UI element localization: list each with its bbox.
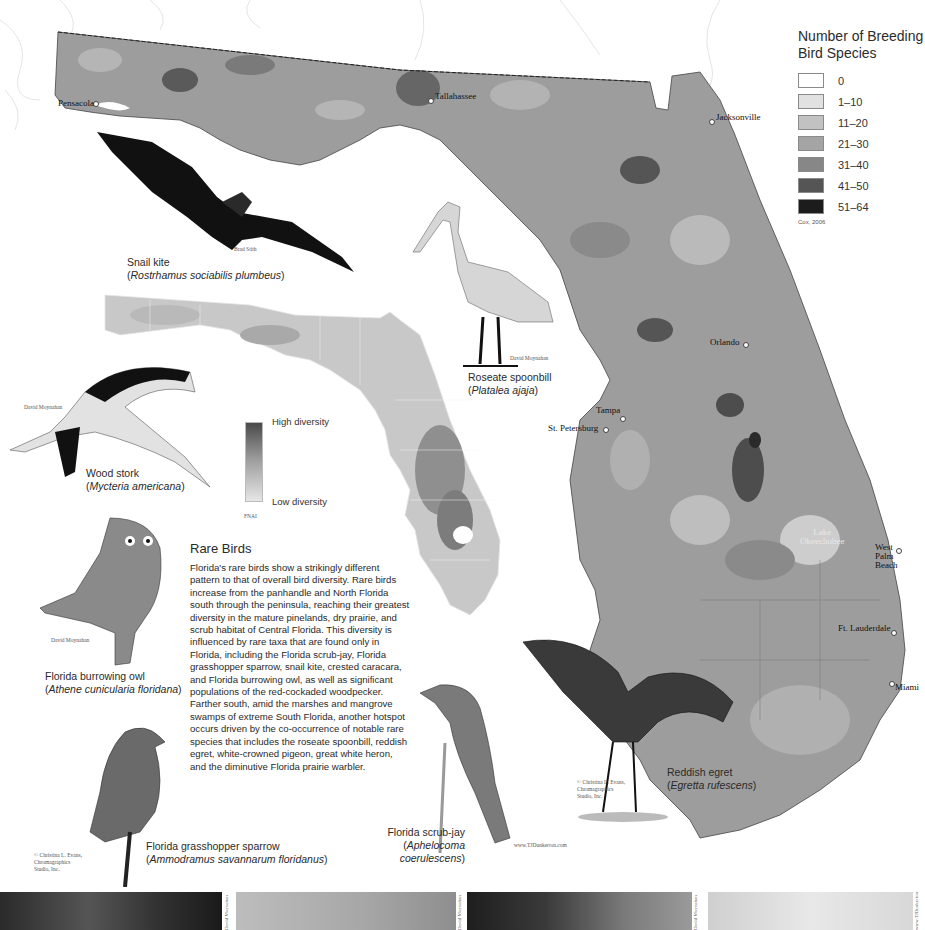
diversity-source: FNAI	[244, 513, 257, 519]
city-marker-jacksonville	[709, 119, 715, 125]
photo-2	[236, 892, 456, 930]
wood-stork-credit: David Moynahan	[24, 404, 62, 411]
legend-swatch	[798, 136, 824, 151]
city-label-ft-lauderdale: Ft. Lauderdale	[838, 623, 890, 633]
city-marker-tampa	[620, 416, 626, 422]
legend-item: 51–64	[798, 196, 925, 217]
city-label-tallahassee: Tallahassee	[435, 91, 476, 101]
diversity-gradient-bar	[245, 422, 263, 502]
rare-birds-heading: Rare Birds	[190, 541, 251, 556]
photo-1-credit: David Moynahan	[224, 892, 232, 930]
city-marker-st-petersburg	[603, 427, 609, 433]
photo-strip: David Moynahan David Moynahan David Moyn…	[0, 892, 925, 930]
species-count-legend: Number of BreedingBird Species 0 1–10 11…	[798, 28, 925, 225]
legend-swatch	[798, 199, 824, 214]
photo-3	[467, 892, 692, 930]
wood-stork-caption: Wood stork (Mycteria americana)	[86, 467, 185, 493]
city-marker-orlando	[743, 342, 749, 348]
high-diversity-label: High diversity	[272, 416, 329, 427]
snail-kite-caption: Snail kite (Rostrhamus sociabilis plumbe…	[127, 256, 285, 282]
legend-swatch	[798, 178, 824, 193]
scrub-jay-caption: Florida scrub-jay (Aphelocoma coerulesce…	[385, 826, 465, 865]
low-diversity-label: Low diversity	[272, 496, 327, 507]
city-marker-ft-lauderdale	[891, 630, 897, 636]
city-label-west-palm-beach: WestPalmBeach	[875, 543, 898, 570]
grasshopper-sparrow-credit: © Christina L. Evans, Chromagraphics Stu…	[34, 852, 82, 873]
roseate-spoonbill-illustration	[408, 192, 558, 372]
legend-item: 1–10	[798, 91, 925, 112]
scrub-jay-credit: www.TJDunkerton.com	[514, 842, 567, 849]
burrowing-owl-credit: David Moynahan	[51, 637, 89, 644]
photo-4	[708, 892, 913, 930]
lake-okeechobee-label: LakeOkeechobee	[800, 528, 844, 546]
snail-kite-credit: Brad Stith	[234, 246, 256, 253]
photo-3-credit: David Moynahan	[693, 892, 701, 930]
city-label-jacksonville: Jacksonville	[716, 112, 761, 122]
photo-4-credit: www.TJDunkerton.com	[914, 892, 922, 930]
legend-item: 31–40	[798, 154, 925, 175]
legend-swatch	[798, 73, 824, 88]
legend-source: Cox, 2006	[798, 219, 925, 225]
photo-1	[0, 892, 222, 930]
reddish-egret-credit: © Christina L. Evans, Chromagraphics Stu…	[577, 779, 625, 800]
legend-title: Number of BreedingBird Species	[798, 28, 925, 62]
legend-swatch	[798, 115, 824, 130]
legend-item: 21–30	[798, 133, 925, 154]
photo-2-credit: David Moynahan	[457, 892, 465, 930]
legend-item: 11–20	[798, 112, 925, 133]
legend-swatch	[798, 157, 824, 172]
reddish-egret-illustration	[518, 632, 738, 827]
reddish-egret-caption: Reddish egret (Egretta rufescens)	[667, 766, 756, 792]
legend-item: 41–50	[798, 175, 925, 196]
legend-item: 0	[798, 70, 925, 91]
burrowing-owl-illustration	[35, 513, 170, 668]
city-label-pensacola: Pensacola	[58, 98, 94, 108]
rare-birds-paragraph: Florida's rare birds show a strikingly d…	[190, 562, 410, 773]
burrowing-owl-caption: Florida burrowing owl (Athene cuniculari…	[45, 670, 182, 696]
roseate-spoonbill-caption: Roseate spoonbill (Platalea ajaja)	[468, 371, 551, 397]
legend-swatch	[798, 94, 824, 109]
city-label-miami: Miami	[895, 682, 919, 692]
city-label-orlando: Orlando	[710, 337, 740, 347]
city-label-tampa: Tampa	[596, 405, 620, 415]
city-marker-tallahassee	[428, 98, 434, 104]
roseate-spoonbill-credit: David Moynahan	[510, 355, 548, 362]
city-label-st-petersburg: St. Petersburg	[548, 423, 598, 433]
grasshopper-sparrow-caption: Florida grasshopper sparrow (Ammodramus …	[146, 840, 328, 866]
